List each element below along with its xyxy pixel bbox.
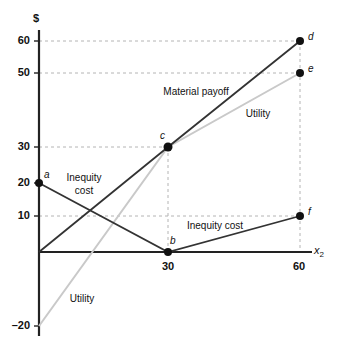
data-point-f xyxy=(296,212,304,220)
annotation-inequity-cost-left: Inequity cost xyxy=(66,172,101,197)
y-tick-label-60: 60 xyxy=(8,35,30,47)
data-point-b xyxy=(164,248,172,256)
data-point-e xyxy=(296,69,304,77)
x-axis-title: x2 xyxy=(314,245,324,260)
x-tick-label-60: 60 xyxy=(293,261,305,273)
annotation-inequity-cost-left-line2: cost xyxy=(75,185,93,196)
y-tick-label-50: 50 xyxy=(8,67,30,79)
y-tick-label-10: 10 xyxy=(8,210,30,222)
y-tick-label-minus-20: –20 xyxy=(2,320,30,332)
annotation-utility-upper: Utility xyxy=(246,109,270,120)
chart-plot-area xyxy=(0,0,337,344)
y-tick-label-20: 20 xyxy=(8,177,30,189)
annotation-utility-lower: Utility xyxy=(70,294,94,305)
annotation-material-payoff: Material payoff xyxy=(163,87,228,98)
x-tick-label-30: 30 xyxy=(162,261,174,273)
chart-figure: $ x2 60 50 30 20 10 –20 30 60 a b c d e … xyxy=(0,0,337,344)
x-axis-subscript: 2 xyxy=(320,250,324,259)
y-axis-title: $ xyxy=(33,13,39,25)
data-point-d xyxy=(296,37,304,45)
annotation-inequity-cost-right: Inequity cost xyxy=(187,221,243,232)
data-point-c xyxy=(164,143,173,152)
point-label-a: a xyxy=(44,170,50,181)
y-tick-label-30: 30 xyxy=(8,141,30,153)
point-label-b: b xyxy=(170,236,176,247)
annotation-inequity-cost-left-line1: Inequity xyxy=(66,172,101,183)
point-label-e: e xyxy=(308,64,314,75)
data-point-a xyxy=(35,179,43,187)
point-label-f: f xyxy=(308,207,311,218)
point-label-d: d xyxy=(308,32,314,43)
point-label-c: c xyxy=(160,131,165,142)
